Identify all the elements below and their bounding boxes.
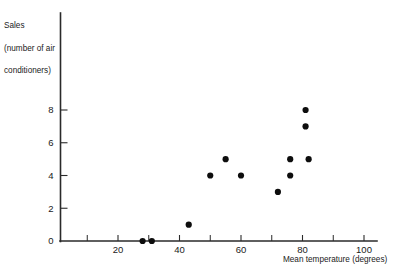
y-axis-title-line-1: Sales bbox=[4, 20, 62, 31]
x-tick-label-80: 80 bbox=[297, 244, 308, 255]
data-point-6 bbox=[275, 189, 281, 195]
y-tick-label-0: 0 bbox=[48, 235, 53, 246]
x-tick-label-100: 100 bbox=[356, 244, 372, 255]
data-point-0 bbox=[140, 238, 146, 244]
x-tick-label-20: 20 bbox=[113, 244, 124, 255]
y-axis-title-line-2: (number of air bbox=[4, 43, 62, 54]
y-tick-label-8: 8 bbox=[48, 104, 53, 115]
axes-group bbox=[60, 13, 377, 242]
data-point-7 bbox=[287, 172, 293, 178]
x-axis-ticks bbox=[87, 235, 364, 241]
y-axis-title-line-3: conditioners) bbox=[4, 65, 62, 76]
y-axis-title: Sales (number of air conditioners) bbox=[4, 9, 62, 88]
y-tick-label-6: 6 bbox=[48, 137, 53, 148]
data-point-5 bbox=[238, 172, 244, 178]
data-point-1 bbox=[149, 238, 155, 244]
data-points-group bbox=[140, 107, 312, 244]
y-tick-label-4: 4 bbox=[48, 170, 53, 181]
y-axis-ticks bbox=[61, 110, 68, 208]
data-point-3 bbox=[207, 172, 213, 178]
y-tick-label-2: 2 bbox=[48, 203, 53, 214]
scatter-plot-figure: 02468 20406080100 Sales (number of air c… bbox=[0, 0, 394, 277]
data-point-2 bbox=[186, 222, 192, 228]
x-axis-tick-labels: 20406080100 bbox=[113, 244, 372, 255]
x-tick-label-60: 60 bbox=[236, 244, 247, 255]
data-point-9 bbox=[302, 123, 308, 129]
x-tick-label-40: 40 bbox=[174, 244, 185, 255]
data-point-8 bbox=[287, 156, 293, 162]
x-axis-title: Mean temperature (degrees) bbox=[283, 255, 387, 265]
y-axis-tick-labels: 02468 bbox=[48, 104, 53, 246]
data-point-4 bbox=[223, 156, 229, 162]
data-point-11 bbox=[306, 156, 312, 162]
data-point-10 bbox=[302, 107, 308, 113]
